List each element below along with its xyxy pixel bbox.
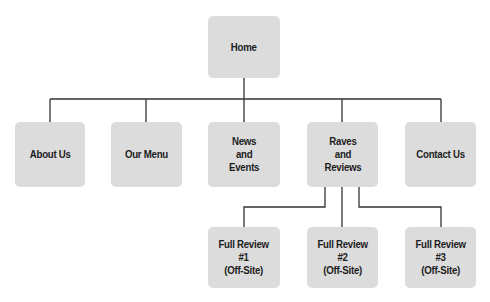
- site-map-diagram: Home About Us Our Menu News and Events R…: [0, 0, 490, 302]
- connector-full-review-1: [244, 187, 325, 227]
- node-label: News and Events: [229, 135, 259, 174]
- node-label: Raves and Reviews: [324, 135, 361, 174]
- connector-full-review-3: [359, 187, 441, 227]
- node-label: Full Review #3 (Off-Site): [415, 238, 465, 277]
- node-label: Full Review #2 (Off-Site): [317, 238, 367, 277]
- node-label: About Us: [30, 148, 71, 161]
- node-home: Home: [208, 16, 280, 78]
- node-full-review-3: Full Review #3 (Off-Site): [405, 227, 476, 288]
- node-our-menu: Our Menu: [111, 122, 182, 187]
- node-label: Full Review #1 (Off-Site): [219, 238, 269, 277]
- node-full-review-1: Full Review #1 (Off-Site): [208, 227, 280, 288]
- node-raves-and-reviews: Raves and Reviews: [307, 122, 378, 187]
- node-label: Home: [231, 41, 257, 54]
- node-news-and-events: News and Events: [208, 122, 280, 187]
- node-contact-us: Contact Us: [405, 122, 476, 187]
- node-full-review-2: Full Review #2 (Off-Site): [307, 227, 378, 288]
- node-label: Contact Us: [416, 148, 464, 161]
- node-about-us: About Us: [15, 122, 85, 187]
- node-label: Our Menu: [125, 148, 168, 161]
